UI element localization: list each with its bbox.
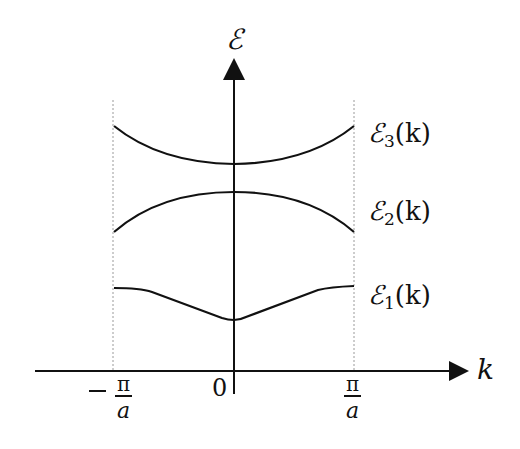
band-3-symbol: ℰ xyxy=(368,118,384,148)
band-3-index: 3 xyxy=(384,131,395,151)
energy-axis-arrowhead xyxy=(223,58,245,80)
band-2-argument: (k) xyxy=(395,196,431,226)
band-2-label: ℰ2(k) xyxy=(368,198,431,228)
band-2-index: 2 xyxy=(384,209,395,229)
tick-numerator: π xyxy=(115,374,132,395)
band-1-symbol: ℰ xyxy=(368,280,384,310)
band-1-index: 1 xyxy=(384,293,395,313)
tick-denominator: a xyxy=(346,397,359,422)
tick-label-zero: 0 xyxy=(212,376,227,400)
band-3-argument: (k) xyxy=(395,118,431,148)
tick-numerator: π xyxy=(344,374,361,395)
band-3-label: ℰ3(k) xyxy=(368,120,431,150)
tick-denominator: a xyxy=(117,397,130,422)
tick-label-pi-over-a: π a xyxy=(344,374,361,422)
band-2-symbol: ℰ xyxy=(368,196,384,226)
band-structure-diagram xyxy=(0,0,520,449)
k-axis-arrowhead xyxy=(449,361,469,381)
band-1-label: ℰ1(k) xyxy=(368,282,431,312)
tick-label-minus-pi-over-a: π a xyxy=(115,374,132,422)
k-axis-label: k xyxy=(477,356,494,384)
band-1-argument: (k) xyxy=(395,280,431,310)
energy-axis-label: ℰ xyxy=(226,26,243,54)
negative-sign xyxy=(89,390,106,392)
